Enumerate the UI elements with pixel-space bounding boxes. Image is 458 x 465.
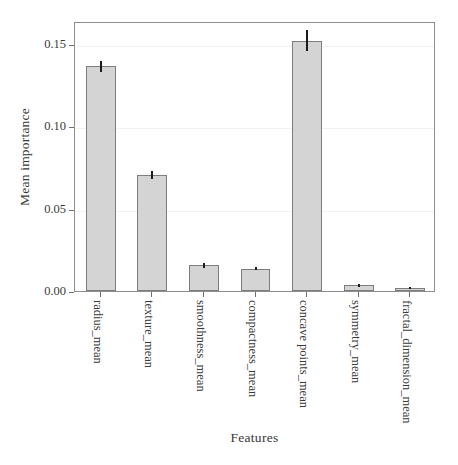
y-tick-mark bbox=[69, 292, 74, 293]
bar bbox=[241, 269, 271, 291]
bar bbox=[189, 265, 219, 291]
y-axis-title: Mean importance bbox=[14, 22, 36, 292]
x-tick-mark bbox=[306, 292, 307, 297]
x-tick-label: radius_mean bbox=[91, 300, 105, 364]
x-tick-label: texture_mean bbox=[142, 300, 156, 368]
error-bar bbox=[409, 287, 411, 289]
x-tick-mark bbox=[358, 292, 359, 297]
error-bar bbox=[151, 171, 153, 179]
x-tick-mark bbox=[255, 292, 256, 297]
error-bar bbox=[306, 30, 308, 51]
y-tick-label: 0.10 bbox=[8, 119, 66, 134]
y-tick-label: 0.05 bbox=[8, 202, 66, 217]
error-bar bbox=[100, 61, 102, 73]
x-tick-label: concave points_mean bbox=[297, 300, 311, 408]
error-bar bbox=[255, 267, 257, 270]
y-tick-label: 0.15 bbox=[8, 37, 66, 52]
x-tick-mark bbox=[409, 292, 410, 297]
error-bar bbox=[358, 284, 360, 287]
x-tick-mark bbox=[203, 292, 204, 297]
x-tick-mark bbox=[151, 292, 152, 297]
x-axis-title: Features bbox=[74, 430, 435, 446]
figure-canvas: Mean importance 0.000.050.100.15 radius_… bbox=[0, 0, 458, 465]
y-tick-label: 0.00 bbox=[8, 284, 66, 299]
gridline bbox=[75, 128, 434, 129]
gridline bbox=[75, 46, 434, 47]
bar bbox=[137, 175, 167, 291]
x-tick-mark bbox=[100, 292, 101, 297]
bar bbox=[292, 41, 322, 291]
x-tick-label: smoothness_mean bbox=[194, 300, 208, 392]
x-tick-label: compactness_mean bbox=[246, 300, 260, 397]
gridline bbox=[75, 211, 434, 212]
plot-area bbox=[74, 22, 435, 292]
error-bar bbox=[203, 263, 205, 268]
x-tick-label: fractal_dimension_mean bbox=[400, 300, 414, 424]
x-tick-label: symmetry_mean bbox=[349, 300, 363, 383]
bar bbox=[86, 66, 116, 291]
